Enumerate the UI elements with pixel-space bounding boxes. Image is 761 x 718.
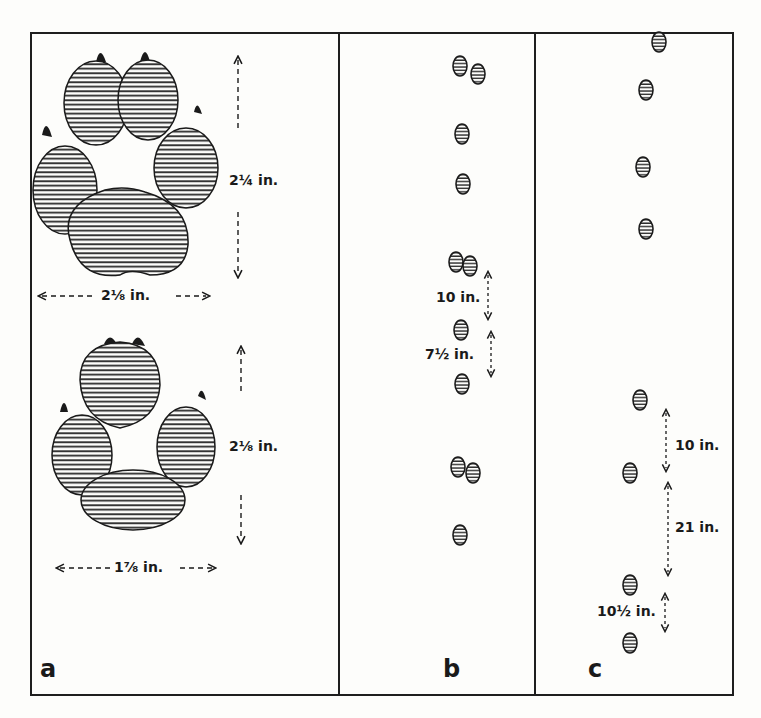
trot-gap3-label: 10½ in. xyxy=(597,603,656,619)
panel-label-b: b xyxy=(443,655,460,683)
hind-length-label: 2⅛ in. xyxy=(229,438,278,454)
trot-gap1-label: 10 in. xyxy=(675,437,719,453)
walk-step-label: 7½ in. xyxy=(425,346,474,362)
panel-label-c: c xyxy=(588,655,602,683)
front-length-label: 2¼ in. xyxy=(229,172,278,188)
trot-gap2-label: 21 in. xyxy=(675,519,719,535)
hind-paw-print xyxy=(52,337,215,530)
trotting-track xyxy=(623,32,666,653)
walk-stride-label: 10 in. xyxy=(436,289,480,305)
panel-label-a: a xyxy=(40,655,56,683)
front-paw-print xyxy=(33,52,218,276)
front-width-label: 2⅛ in. xyxy=(101,287,150,303)
hind-width-label: 1⅞ in. xyxy=(114,559,163,575)
